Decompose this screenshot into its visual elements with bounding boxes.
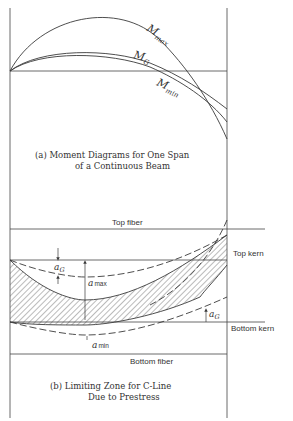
caption-b-line1: (b) Limiting Zone for C-Line (50, 381, 171, 391)
caption-b-line2: Due to Prestress (88, 392, 160, 402)
curve-m-max (10, 17, 227, 139)
label-bottom-kern: Bottom kern (231, 324, 274, 333)
label-top-fiber: Top fiber (112, 218, 143, 227)
moment-diagram-group: Mmax MG Mmin (a) Moment Diagrams for One… (10, 17, 227, 171)
hatched-limiting-zone (10, 235, 227, 325)
figure-canvas: Mmax MG Mmin (a) Moment Diagrams for One… (0, 0, 293, 421)
label-a-max: amax (88, 278, 107, 288)
limiting-zone-group: aG amax aG amin Top fiber Top kern Botto… (10, 218, 274, 402)
label-a-g-top: aG (54, 262, 65, 274)
label-a-g-right: aG (209, 309, 220, 321)
label-m-max: Mmax (143, 21, 174, 48)
label-bottom-fiber: Bottom fiber (130, 357, 173, 366)
label-a-min: amin (92, 340, 109, 350)
curve-m-min (10, 55, 227, 122)
label-m-min: Mmin (153, 75, 183, 99)
caption-a-line1: (a) Moment Diagrams for One Span (35, 150, 190, 160)
label-top-kern: Top kern (233, 249, 264, 258)
caption-a-line2: of a Continuous Beam (75, 161, 170, 171)
